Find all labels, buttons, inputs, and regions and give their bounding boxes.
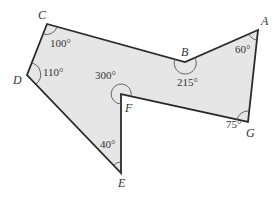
angle-label-b: 215° <box>177 76 198 88</box>
angle-label-a: 60° <box>235 43 250 55</box>
angle-label-g: 75° <box>226 118 241 130</box>
vertex-label-c: C <box>38 8 47 22</box>
angle-label-c: 100° <box>50 37 71 49</box>
angle-label-f: 300° <box>95 69 116 81</box>
vertex-label-a: A <box>260 14 269 28</box>
vertex-label-g: G <box>246 126 255 140</box>
angle-label-d: 110° <box>43 66 64 78</box>
vertex-label-b: B <box>181 45 189 59</box>
vertex-label-d: D <box>12 73 22 87</box>
vertex-label-e: E <box>117 176 126 190</box>
vertex-label-f: F <box>124 101 133 115</box>
angle-label-e: 40° <box>100 138 115 150</box>
polygon-diagram: A B C D E F G 60° 215° 100° 110° 40° 300… <box>0 0 280 199</box>
